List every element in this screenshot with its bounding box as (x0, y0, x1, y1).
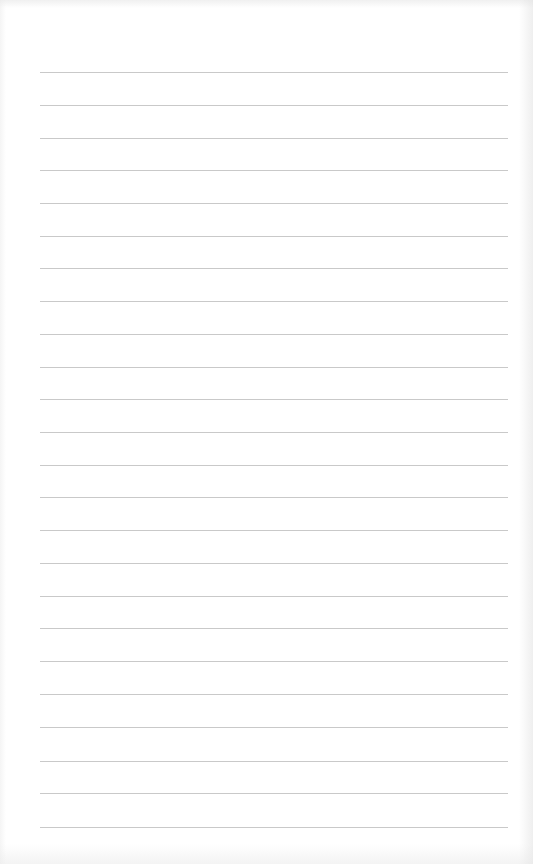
ruled-line (40, 72, 508, 73)
ruled-line (40, 661, 508, 662)
ruled-line (40, 138, 508, 139)
ruled-line (40, 105, 508, 106)
ruled-line (40, 563, 508, 564)
paper-edge-shadow-left (0, 0, 6, 864)
ruled-line (40, 530, 508, 531)
lined-paper-page (0, 0, 533, 864)
ruled-line (40, 203, 508, 204)
ruled-line (40, 268, 508, 269)
ruled-line (40, 827, 508, 828)
ruled-line (40, 301, 508, 302)
ruled-line (40, 465, 508, 466)
ruled-line (40, 334, 508, 335)
paper-edge-shadow-top (0, 0, 533, 8)
ruled-line (40, 236, 508, 237)
paper-edge-shadow-bottom (0, 844, 533, 864)
paper-edge-shadow-right (519, 0, 533, 864)
ruled-line (40, 596, 508, 597)
ruled-line (40, 497, 508, 498)
ruled-line (40, 694, 508, 695)
ruled-line (40, 170, 508, 171)
ruled-line (40, 367, 508, 368)
ruled-line (40, 432, 508, 433)
ruled-line (40, 761, 508, 762)
ruled-line (40, 727, 508, 728)
ruled-line (40, 399, 508, 400)
ruled-line (40, 793, 508, 794)
ruled-line (40, 628, 508, 629)
